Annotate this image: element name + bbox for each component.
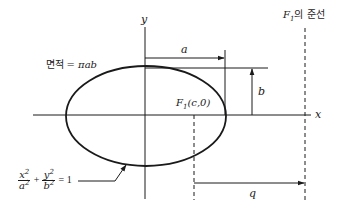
area-text: 면적 [46,59,64,70]
ellipse [66,66,226,166]
y-axis-label: y [141,14,147,25]
directrix-label: F1의 준선 [283,10,325,20]
semi-minor-label: b [258,86,265,97]
x-axis-label: x [315,109,321,120]
distance-q-label: q [249,188,256,199]
ellipse-equation: x2a2 + y2b2 = 1 [18,170,72,191]
equation-leader-line [78,165,126,181]
area-formula: = πab [67,59,98,70]
area-label: 면적 = πab [46,60,97,70]
focus-label: F1(c,0) [176,98,210,108]
semi-major-label: a [181,44,188,55]
